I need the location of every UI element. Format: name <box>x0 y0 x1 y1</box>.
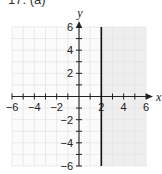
x-axis-arrow-icon <box>146 94 153 100</box>
x-tick-label: −6 <box>6 101 19 113</box>
y-tick-label: −2 <box>60 114 73 126</box>
y-axis-label: y <box>76 6 83 20</box>
y-tick-label: 4 <box>67 44 73 56</box>
y-tick-label: 2 <box>67 67 73 79</box>
coordinate-plane: −6−4−2246642−2−4−6xy <box>0 0 162 174</box>
y-tick-label: −6 <box>60 160 73 172</box>
x-tick-label: 4 <box>121 101 127 113</box>
y-tick-label: 6 <box>67 21 73 33</box>
y-tick-label: −4 <box>60 137 73 149</box>
x-tick-label: −4 <box>28 101 41 113</box>
x-tick-label: −2 <box>50 101 63 113</box>
x-axis-label: x <box>155 90 162 104</box>
x-tick-label: 6 <box>143 101 149 113</box>
